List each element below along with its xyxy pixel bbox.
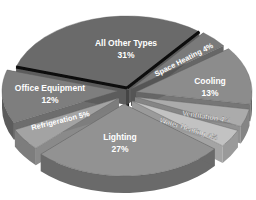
label-all-other-types-pct: 31%: [117, 50, 134, 60]
label-cooling-pct: 13%: [201, 88, 218, 98]
label-lighting-name: Lighting: [103, 132, 137, 142]
label-office-equipment-name: Office Equipment: [15, 83, 86, 93]
label-all-other-types-name: All Other Types: [95, 38, 157, 48]
label-lighting-pct: 27%: [111, 144, 128, 154]
label-cooling-name: Cooling: [194, 76, 226, 86]
pie-chart: All Other Types 31% Space Heating 4% Coo…: [0, 0, 256, 200]
label-office-equipment-pct: 12%: [41, 95, 58, 105]
